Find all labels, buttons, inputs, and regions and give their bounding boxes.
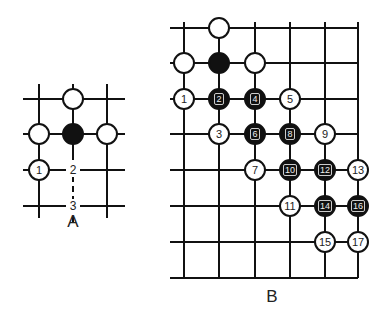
move-number: 16	[351, 200, 365, 212]
diagram-caption: B	[266, 287, 277, 307]
white-stone: 5	[279, 88, 301, 110]
black-stone: 2	[208, 88, 230, 110]
white-stone	[208, 17, 230, 39]
move-number: 1	[36, 165, 42, 176]
move-number: 10	[283, 164, 297, 176]
grid-line-horizontal	[170, 277, 358, 279]
black-stone: 4	[244, 88, 266, 110]
white-stone: 9	[314, 123, 336, 145]
diagram-caption: A	[67, 212, 78, 232]
move-number: 11	[284, 201, 295, 212]
grid-line-vertical	[106, 84, 108, 218]
move-number: 12	[318, 164, 332, 176]
move-number: 2	[214, 93, 223, 105]
black-stone: 16	[347, 195, 369, 217]
black-stone	[62, 123, 84, 145]
black-stone: 8	[279, 123, 301, 145]
white-stone: 1	[173, 88, 195, 110]
white-stone: 7	[244, 159, 266, 181]
white-stone	[173, 52, 195, 74]
move-number: 4	[250, 93, 259, 105]
white-stone	[62, 88, 84, 110]
move-number: 14	[318, 200, 332, 212]
move-number: 7	[252, 165, 258, 176]
point-label: 2	[66, 163, 80, 177]
point-label: 3	[66, 199, 80, 213]
black-stone	[208, 52, 230, 74]
grid-line-vertical	[289, 22, 291, 278]
move-number: 9	[322, 129, 328, 140]
white-stone	[244, 52, 266, 74]
white-stone: 13	[347, 159, 369, 181]
move-number: 5	[287, 94, 293, 105]
black-stone: 14	[314, 195, 336, 217]
white-stone: 17	[347, 231, 369, 253]
grid-line-horizontal	[170, 27, 358, 29]
move-number: 1	[181, 94, 187, 105]
move-number: 3	[216, 129, 222, 140]
move-number: 15	[319, 237, 331, 248]
black-stone: 10	[279, 159, 301, 181]
white-stone: 3	[208, 123, 230, 145]
white-stone	[28, 123, 50, 145]
white-stone	[96, 123, 118, 145]
move-number: 8	[285, 128, 294, 140]
white-stone: 11	[279, 195, 301, 217]
grid-line-vertical	[38, 84, 40, 218]
black-stone: 6	[244, 123, 266, 145]
white-stone: 1	[28, 159, 50, 181]
move-number: 13	[352, 165, 364, 176]
move-number: 6	[250, 128, 259, 140]
black-stone: 12	[314, 159, 336, 181]
move-number: 17	[352, 237, 364, 248]
go-diagram-figure: 231A1245368971012131114161517B	[0, 0, 390, 314]
white-stone: 15	[314, 231, 336, 253]
